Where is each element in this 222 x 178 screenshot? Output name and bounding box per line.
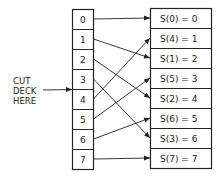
arrow-5-to-3: [94, 78, 151, 119]
left-position-column: 0 1 2 3 4 5 6 7: [73, 10, 94, 170]
right-cell: S(6) = 5: [160, 114, 197, 124]
right-cell: S(0) = 0: [160, 14, 198, 24]
arrow-2-to-4: [94, 59, 151, 98]
svg-text:CUT: CUT: [13, 76, 31, 86]
arrow-3-to-6: [94, 79, 151, 138]
perfect-shuffle-diagram: 0 1 2 3 4 5 6 7 S(0) = 0 S(4) = 1 S(1) =…: [0, 0, 222, 178]
cut-deck-label: CUT DECK HERE: [13, 76, 72, 106]
left-cell: 4: [80, 95, 86, 105]
right-shuffle-column: S(0) = 0 S(4) = 1 S(1) = 2 S(5) = 3 S(2)…: [151, 9, 212, 169]
right-cell: S(2) = 4: [160, 94, 198, 104]
right-cell: S(5) = 3: [160, 74, 197, 84]
svg-text:DECK: DECK: [13, 86, 37, 96]
left-cell: 2: [80, 55, 86, 65]
arrow-0-to-0: [94, 18, 151, 19]
left-cell: 1: [80, 35, 86, 45]
left-cell: 3: [80, 75, 86, 85]
right-cell: S(3) = 6: [160, 134, 198, 144]
left-cell: 0: [80, 15, 86, 25]
cut-arrow: [43, 90, 72, 91]
arrow-1-to-2: [94, 39, 151, 58]
mapping-arrows: [94, 18, 151, 159]
right-cell: S(7) = 7: [160, 154, 197, 164]
arrow-7-to-7: [94, 158, 151, 159]
arrow-4-to-1: [94, 38, 151, 99]
right-cell: S(1) = 2: [160, 54, 197, 64]
left-cell: 6: [80, 135, 86, 145]
left-cell: 7: [80, 155, 86, 165]
left-cell: 5: [80, 115, 86, 125]
right-cell: S(4) = 1: [160, 34, 197, 44]
svg-text:HERE: HERE: [13, 96, 36, 106]
